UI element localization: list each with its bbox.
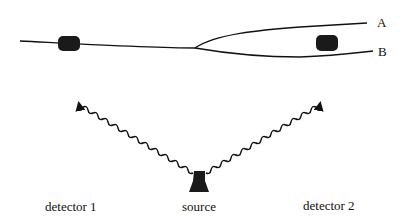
detector-1-device <box>58 36 80 51</box>
source-label: source <box>182 199 216 214</box>
branch-a-line <box>195 23 367 48</box>
photon-path-to-detector-2 <box>206 104 320 174</box>
detector-1-label: detector 1 <box>45 199 97 214</box>
detector-2-device <box>316 35 338 51</box>
branch-a-label: A <box>377 15 387 30</box>
diagram-canvas: A B detector 1 source detector 2 <box>0 0 405 221</box>
branch-b-line <box>195 48 373 57</box>
source-device <box>189 171 209 192</box>
detector-2-label: detector 2 <box>303 198 355 213</box>
trajectory-line <box>20 41 195 48</box>
photon-path-to-detector-1 <box>79 104 193 174</box>
branch-b-label: B <box>378 44 387 59</box>
